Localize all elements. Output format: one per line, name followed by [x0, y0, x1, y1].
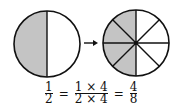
eighths-circle: [103, 10, 169, 76]
right-arrow-icon: [84, 40, 98, 46]
fraction-equation: 1 2 = 1 × 4 2 × 4 = 4 8: [44, 82, 138, 105]
fraction-circles-diagram: [0, 0, 183, 80]
half-circle: [14, 11, 80, 77]
fraction-one-half: 1 2: [45, 82, 53, 105]
equals-sign: =: [114, 87, 124, 101]
equals-sign: =: [59, 87, 69, 101]
denominator: 2 × 4: [75, 94, 108, 105]
fraction-four-eighths: 4 8: [130, 82, 138, 105]
denominator: 2: [45, 94, 53, 105]
fraction-product: 1 × 4 2 × 4: [75, 82, 108, 105]
denominator: 8: [130, 94, 138, 105]
